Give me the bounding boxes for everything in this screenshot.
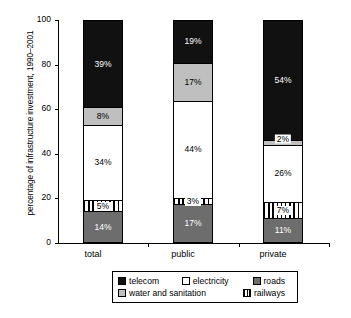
segment-value-label: 34% (94, 158, 111, 167)
segment-value-label: 54% (274, 76, 291, 85)
legend-swatch-telecom-icon (118, 277, 126, 285)
legend-row-2: water and sanitation railways (118, 287, 292, 299)
y-tick-label-60: 60 (42, 103, 51, 114)
segment-value-label: 19% (184, 37, 201, 46)
y-axis-line (58, 20, 59, 243)
y-tick-60: 60 (55, 109, 59, 110)
segment-public-water[interactable]: 17% (174, 63, 212, 101)
stacked-bar-chart: percentage of infrastructure investment,… (0, 0, 351, 318)
segment-value-label: 44% (184, 145, 201, 154)
x-axis-line (58, 243, 330, 244)
bar-public[interactable]: 19% 17% 44% 3% 17% (173, 20, 213, 243)
legend-label-telecom: telecom (129, 276, 159, 286)
legend-item-railways[interactable]: railways (243, 288, 285, 298)
y-tick-0: 0 (55, 243, 59, 244)
x-axis-label-public: public (138, 249, 228, 259)
segment-value-label: 17% (184, 219, 201, 228)
legend-swatch-water-icon (118, 289, 126, 297)
segment-value-label: 2% (275, 134, 291, 143)
segment-public-railways[interactable]: 3% (174, 198, 212, 205)
segment-private-railways[interactable]: 7% (264, 202, 302, 217)
segment-total-railways[interactable]: 5% (84, 200, 122, 211)
segment-value-label: 26% (274, 169, 291, 178)
segment-total-water[interactable]: 8% (84, 107, 122, 125)
y-tick-label-40: 40 (42, 148, 51, 159)
segment-value-label: 11% (275, 226, 291, 235)
segment-value-label: 7% (275, 206, 291, 215)
segment-value-label: 17% (184, 78, 201, 87)
legend-row-1: telecom electricity roads (118, 275, 292, 287)
legend-item-electricity[interactable]: electricity (182, 276, 246, 286)
bar-private[interactable]: 54% 2% 26% 7% 11% (263, 20, 303, 243)
legend-item-roads[interactable]: roads (253, 276, 286, 286)
y-tick-label-100: 100 (37, 14, 51, 25)
x-tick-3 (329, 243, 330, 247)
segment-private-telecom[interactable]: 54% (264, 21, 302, 140)
y-tick-label-80: 80 (42, 59, 51, 70)
x-tick-2 (239, 243, 240, 247)
legend-label-railways: railways (254, 288, 285, 298)
segment-value-label: 14% (94, 223, 111, 232)
y-tick-20: 20 (55, 198, 59, 199)
segment-value-label: 8% (97, 112, 109, 121)
y-tick-100: 100 (55, 20, 59, 21)
segment-value-label: 3% (185, 197, 201, 206)
segment-public-roads[interactable]: 17% (174, 204, 212, 242)
segment-private-electricity[interactable]: 26% (264, 145, 302, 202)
segment-total-electricity[interactable]: 34% (84, 125, 122, 200)
y-tick-80: 80 (55, 65, 59, 66)
legend-swatch-electricity-icon (182, 277, 190, 285)
legend-label-electricity: electricity (193, 276, 229, 286)
x-axis-label-private: private (228, 249, 318, 259)
segment-value-label: 39% (94, 60, 111, 69)
legend-item-telecom[interactable]: telecom (118, 276, 175, 286)
legend-swatch-roads-icon (253, 277, 261, 285)
plot-area: 100 80 60 40 20 0 39% (58, 20, 330, 243)
x-axis-label-total: total (48, 249, 138, 259)
segment-public-telecom[interactable]: 19% (174, 21, 212, 63)
segment-public-electricity[interactable]: 44% (174, 101, 212, 198)
legend-label-water-and-sanitation: water and sanitation (129, 288, 206, 298)
legend-item-water-and-sanitation[interactable]: water and sanitation (118, 288, 236, 298)
legend: telecom electricity roads water and sani… (112, 271, 298, 303)
segment-private-roads[interactable]: 11% (264, 218, 302, 242)
legend-swatch-railways-icon (243, 289, 251, 297)
y-tick-label-0: 0 (46, 237, 51, 248)
segment-total-telecom[interactable]: 39% (84, 21, 122, 107)
segment-value-label: 5% (95, 202, 111, 211)
y-axis-title: percentage of infrastructure investment,… (25, 8, 35, 238)
bar-total[interactable]: 39% 8% 34% 5% 14% (83, 20, 123, 243)
segment-total-roads[interactable]: 14% (84, 211, 122, 242)
legend-label-roads: roads (264, 276, 286, 286)
x-tick-1 (148, 243, 149, 247)
y-tick-label-20: 20 (42, 192, 51, 203)
y-tick-40: 40 (55, 154, 59, 155)
